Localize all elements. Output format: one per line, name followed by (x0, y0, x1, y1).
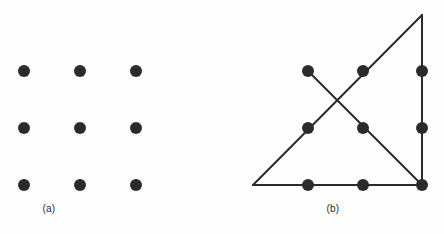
dot-r2c1 (18, 122, 30, 134)
dot-r1c3 (416, 65, 428, 77)
dot-r3c2 (357, 179, 369, 191)
dot-r1c1 (302, 65, 314, 77)
dot-r2c2 (357, 122, 369, 134)
dot-r1c2 (74, 65, 86, 77)
dot-r2c1 (302, 122, 314, 134)
dot-r3c3 (130, 179, 142, 191)
dot-r3c3 (416, 179, 428, 191)
dot-r1c2 (357, 65, 369, 77)
panel-b: (b) (222, 0, 444, 234)
dot-r2c3 (416, 122, 428, 134)
dot-r3c2 (74, 179, 86, 191)
panel-a-caption: (a) (0, 203, 160, 214)
panel-b-canvas (222, 0, 444, 234)
dot-r1c3 (130, 65, 142, 77)
dot-r2c2 (74, 122, 86, 134)
panel-a: (a) (0, 0, 222, 234)
panel-b-caption: (b) (222, 203, 444, 214)
dot-r1c1 (18, 65, 30, 77)
dot-r2c3 (130, 122, 142, 134)
nine-dots-figure: (a) (b) (0, 0, 444, 234)
dot-r3c1 (302, 179, 314, 191)
dot-r3c1 (18, 179, 30, 191)
panel-a-canvas (0, 0, 222, 234)
